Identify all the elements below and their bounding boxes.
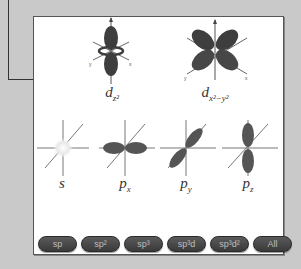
dx2y2-label-main: d [202, 84, 210, 100]
sp3-button[interactable]: sp³ [124, 236, 163, 252]
py-label: py [180, 175, 192, 194]
py-label-main: p [180, 175, 188, 191]
sp-button[interactable]: sp [38, 236, 77, 252]
px-label-main: p [119, 175, 127, 191]
axis-y-label: y [184, 75, 187, 81]
dx2y2-label: dx²−y² [202, 84, 229, 103]
dx2y2-orbital-icon: y x [183, 18, 253, 82]
dz2-label-sub: z² [113, 93, 119, 103]
s-label-main: s [59, 175, 65, 191]
dz2-label-main: d [105, 84, 113, 100]
px-label-sub: x [127, 184, 131, 194]
axis-y-label: y [89, 61, 92, 67]
sp3d-button[interactable]: sp³d [167, 236, 206, 252]
pz-label-sub: z [250, 184, 254, 194]
axis-x-label: x [245, 75, 248, 81]
px-orbital-icon [97, 120, 157, 176]
pz-label-main: p [242, 175, 250, 191]
all-button[interactable]: All [253, 236, 292, 252]
axis-x-label: x [129, 61, 132, 67]
hybridization-button-bar: sp sp² sp³ sp³d sp³d² All [38, 236, 283, 252]
connector-line-vertical [8, 0, 9, 80]
dz2-orbital-icon: y x [85, 16, 137, 86]
dx2y2-label-sub: x²−y² [209, 93, 228, 103]
sp2-button[interactable]: sp² [81, 236, 120, 252]
py-label-sub: y [188, 184, 192, 194]
px-label: px [119, 175, 131, 194]
sp3d2-button[interactable]: sp³d² [210, 236, 249, 252]
s-orbital-icon [35, 120, 91, 176]
py-orbital-icon [158, 120, 218, 176]
dz2-label: dz² [105, 84, 119, 103]
pz-orbital-icon [220, 120, 280, 176]
pz-label: pz [242, 175, 253, 194]
s-label: s [59, 175, 65, 192]
